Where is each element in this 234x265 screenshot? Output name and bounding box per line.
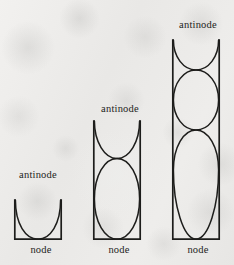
tube-walls-1 (15, 200, 61, 239)
harmonic-diagram-1 (15, 200, 61, 239)
harmonic-diagram-2 (94, 121, 140, 239)
wave-envelope-positive-2 (94, 121, 139, 239)
standing-wave-diagram (0, 0, 234, 265)
antinode-label-3: antinode (179, 20, 217, 31)
node-label-3: node (187, 245, 208, 256)
wave-envelope-negative-2 (94, 121, 139, 239)
node-label-2: node (108, 245, 129, 256)
figure-canvas: antinode node antinode node antinode nod… (0, 0, 234, 265)
tube-walls-2 (94, 121, 140, 239)
node-label-1: node (30, 245, 51, 256)
harmonic-diagram-3 (173, 40, 219, 239)
wave-envelope-positive-1 (15, 200, 38, 239)
antinode-label-1: antinode (19, 170, 57, 181)
antinode-label-2: antinode (101, 104, 139, 115)
wave-envelope-negative-1 (38, 200, 61, 239)
wave-envelope-negative-3 (173, 40, 218, 239)
